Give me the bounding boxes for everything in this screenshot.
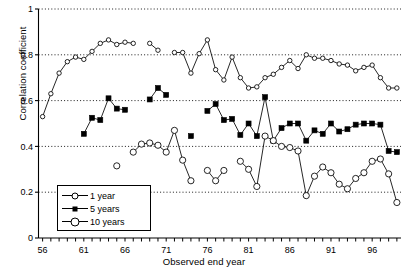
data-point-circle-large [188,178,194,184]
data-point-circle-large [287,144,293,150]
data-point-circle-small [238,76,242,80]
data-point-square [147,97,152,102]
series-10-years [114,127,400,205]
data-point-square [238,132,243,137]
data-point-circle-large [138,141,144,147]
legend-label: 10 years [88,217,125,227]
legend-item-10-years: 10 years [62,215,146,228]
data-point-circle-small [73,55,77,59]
data-point-circle-small [271,72,275,76]
data-point-circle-large [295,148,301,154]
data-point-circle-large [163,149,169,155]
x-tick-label: 81 [244,245,254,255]
series-line [43,40,134,117]
data-point-square [296,121,301,126]
x-tick-label: 56 [38,245,48,255]
data-point-circle-large [171,127,177,133]
series-line [207,97,396,152]
data-point-square [328,121,333,126]
data-point-circle-large [328,170,334,176]
data-point-circle-large [386,171,392,177]
data-point-circle-small [197,51,201,55]
data-point-square [394,150,399,155]
x-tick-label: 61 [79,245,89,255]
x-tick-label: 76 [202,245,212,255]
data-point-circle-small [90,49,94,53]
data-point-square [361,121,366,126]
data-point-circle-large [245,166,251,172]
data-point-square [205,108,210,113]
data-point-square [106,96,111,101]
chart-plot-area: 00.20.40.60.81566166717681869196 [0,0,408,272]
data-point-circle-large [114,163,120,169]
series-line [133,130,191,180]
data-point-circle-large [278,143,284,149]
data-point-circle-large [221,167,227,173]
data-point-square [312,128,317,133]
legend-item-1-year: 1 year [62,189,146,202]
data-point-circle-large [303,193,309,199]
chart-figure: 00.20.40.60.81566166717681869196 Correla… [0,0,408,272]
data-point-circle-large [155,142,161,148]
data-point-circle-large [237,158,243,164]
data-point-circle-large [262,133,268,139]
legend-marker-filled-square-icon [62,202,88,215]
data-point-square [386,148,391,153]
data-point-square [81,131,86,136]
data-point-circle-large [361,170,367,176]
data-point-circle-small [321,56,325,60]
x-tick-label: 96 [367,245,377,255]
data-point-circle-small [255,85,259,89]
data-point-circle-small [345,63,349,67]
chart-legend: 1 year 5 years 10 years [57,185,151,231]
data-point-circle-small [386,86,390,90]
data-point-circle-small [189,71,193,75]
data-point-square [304,138,309,143]
data-point-circle-small [288,58,292,62]
y-tick-label: 0 [28,233,33,243]
series-1-year [40,38,399,119]
data-point-circle-large [213,178,219,184]
data-point-circle-small [123,40,127,44]
data-point-circle-large [270,138,276,144]
series-line [240,136,397,202]
data-point-circle-small [106,38,110,42]
data-point-square [90,115,95,120]
data-point-circle-small [370,63,374,67]
data-point-circle-large [394,199,400,205]
data-point-square [221,118,226,123]
data-point-square [320,131,325,136]
data-point-circle-small [222,78,226,82]
data-point-circle-small [172,50,176,54]
data-point-square [337,129,342,134]
data-point-square [155,86,160,91]
data-point-circle-small [57,71,61,75]
data-point-circle-small [304,53,308,57]
y-axis-label: Correlation coefficient [17,4,28,144]
data-point-circle-small [131,41,135,45]
data-point-circle-large [130,149,136,155]
data-point-square [287,121,292,126]
data-point-circle-small [156,48,160,52]
data-point-circle-large [147,140,153,146]
data-point-circle-small [279,65,283,69]
data-point-circle-small [312,56,316,60]
data-point-circle-small [40,114,44,118]
data-point-circle-small [329,58,333,62]
x-tick-label: 91 [326,245,336,255]
data-point-square [246,121,251,126]
data-point-circle-small [337,62,341,66]
data-point-circle-small [115,42,119,46]
legend-label: 1 year [88,191,115,201]
data-point-circle-small [205,38,209,42]
data-point-circle-small [230,55,234,59]
data-point-square [254,134,259,139]
data-point-circle-small [213,67,217,71]
legend-marker-open-circle-small-icon [62,189,88,202]
data-point-circle-small [395,86,399,90]
legend-label: 5 years [88,204,120,214]
data-point-circle-small [49,92,53,96]
data-point-circle-large [320,164,326,170]
x-tick-label: 71 [161,245,171,255]
legend-marker-open-circle-large-icon [62,215,88,228]
